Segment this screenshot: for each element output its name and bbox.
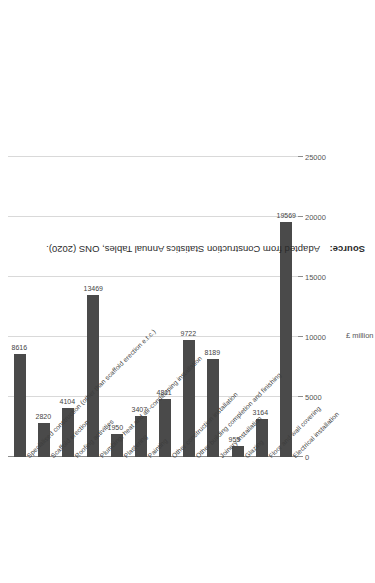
plot-area: 1956931649558189972248113407195013469410… <box>8 157 298 457</box>
bar-chart: 1956931649558189972248113407195013469410… <box>0 78 375 583</box>
bar-row: 4811 <box>153 157 177 457</box>
axis-tick-label: 0 <box>305 453 309 462</box>
bar-value-label: 8189 <box>204 348 220 355</box>
bar-value-label: 9722 <box>180 330 196 337</box>
bar-row: 8616 <box>8 157 32 457</box>
bar-row: 1950 <box>105 157 129 457</box>
bar-value-label: 4104 <box>59 397 75 404</box>
bar-row: 2820 <box>32 157 56 457</box>
axis-tick <box>298 396 303 397</box>
source-text: Adapted from Construction Statistics Ann… <box>46 244 320 255</box>
bar-row: 19569 <box>274 157 298 457</box>
axis-tick-label: 15000 <box>305 273 326 282</box>
axis-tick-label: 5000 <box>305 393 322 402</box>
rotated-figure-container: 1956931649558189972248113407195013469410… <box>0 0 375 583</box>
axis-tick-label: 25000 <box>305 153 326 162</box>
axis-tick <box>298 156 303 157</box>
bar-value-label: 13469 <box>84 285 103 292</box>
axis-title: £ million <box>346 331 374 340</box>
category-label: Electrical installation <box>291 410 340 459</box>
bar-value-label: 19569 <box>277 212 296 219</box>
bar <box>14 354 26 457</box>
bar-value-label: 2820 <box>35 413 51 420</box>
source-label: Source: <box>330 244 365 255</box>
axis-tick <box>298 336 303 337</box>
source-note: Source: Adapted from Construction Statis… <box>0 244 365 255</box>
bar-value-label: 8616 <box>11 343 27 350</box>
axis-tick <box>298 216 303 217</box>
bar <box>280 222 292 457</box>
axis-tick-label: 20000 <box>305 213 326 222</box>
bar-row: 13469 <box>81 157 105 457</box>
bar-value-label: 3164 <box>253 409 269 416</box>
bar-row: 9722 <box>177 157 201 457</box>
bar-row: 3164 <box>250 157 274 457</box>
axis-tick <box>298 276 303 277</box>
axis-tick-label: 10000 <box>305 333 326 342</box>
